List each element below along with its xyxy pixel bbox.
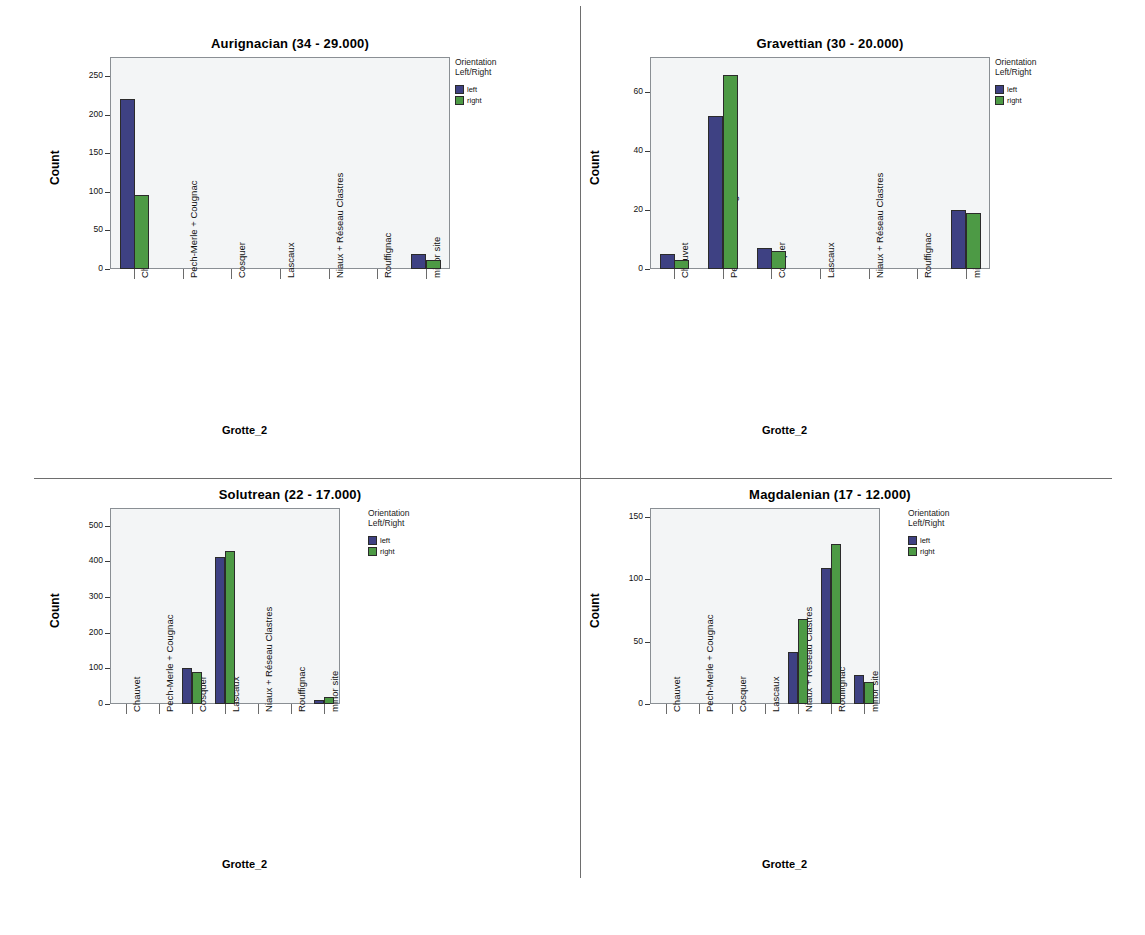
bar-solutrean-3-left	[215, 557, 225, 704]
x-axis-label-magdalenian-3: Lascaux	[770, 677, 781, 712]
x-tick-mark-gravettian-6	[966, 269, 967, 279]
x-axis-title-magdalenian: Grotte_2	[762, 858, 807, 870]
legend-title: OrientationLeft/Right	[368, 508, 410, 529]
legend-item-left[interactable]: left	[995, 85, 1037, 94]
y-tick-label: 20	[634, 204, 643, 214]
y-tick-mark	[645, 151, 650, 152]
bar-magdalenian-6-left	[854, 675, 864, 704]
bar-aurignacian-6-left	[411, 254, 426, 269]
x-tick-mark-solutrean-6	[324, 704, 325, 714]
legend-swatch-left-icon	[455, 85, 464, 94]
y-tick-label: 300	[89, 591, 103, 601]
y-tick-mark	[105, 230, 110, 231]
x-axis-label-aurignacian-3: Lascaux	[285, 243, 296, 278]
y-tick-mark	[105, 76, 110, 77]
bar-gravettian-6-right	[966, 213, 981, 269]
vertical-divider	[580, 6, 581, 878]
legend-title: OrientationLeft/Right	[908, 508, 950, 529]
legend-gravettian: OrientationLeft/Rightleftright	[995, 57, 1037, 107]
chart-title-magdalenian: Magdalenian (17 - 12.000)	[600, 487, 1060, 502]
y-tick-label: 60	[634, 86, 643, 96]
legend-item-right[interactable]: right	[368, 547, 410, 556]
bar-aurignacian-0-right	[134, 195, 149, 269]
x-tick-mark-aurignacian-0	[134, 269, 135, 279]
y-axis-title-magdalenian: Count	[588, 593, 602, 628]
legend-item-left[interactable]: left	[368, 536, 410, 545]
x-tick-mark-magdalenian-6	[864, 704, 865, 714]
bar-gravettian-1-left	[708, 116, 723, 269]
legend-label-right: right	[1007, 96, 1022, 105]
y-tick-mark	[105, 153, 110, 154]
x-axis-label-gravettian-5: Rouffignac	[922, 233, 933, 278]
y-tick-label: 400	[89, 555, 103, 565]
x-tick-mark-gravettian-0	[674, 269, 675, 279]
bar-magdalenian-5-left	[821, 568, 831, 704]
bar-aurignacian-0-left	[120, 99, 135, 269]
y-tick-label: 100	[89, 186, 103, 196]
y-tick-mark	[645, 704, 650, 705]
x-tick-mark-aurignacian-4	[329, 269, 330, 279]
y-tick-label: 150	[629, 511, 643, 521]
bar-solutrean-2-left	[182, 668, 192, 704]
legend-item-left[interactable]: left	[455, 85, 497, 94]
x-axis-label-gravettian-4: Niaux + Réseau Clastres	[874, 173, 885, 278]
y-tick-mark	[105, 597, 110, 598]
x-tick-mark-solutrean-2	[192, 704, 193, 714]
y-tick-mark	[645, 517, 650, 518]
y-tick-label: 100	[89, 662, 103, 672]
y-tick-label: 0	[98, 698, 103, 708]
x-axis-label-gravettian-3: Lascaux	[825, 243, 836, 278]
y-tick-mark	[105, 561, 110, 562]
bar-solutrean-6-left	[314, 700, 324, 704]
legend-item-right[interactable]: right	[908, 547, 950, 556]
y-axis-title-aurignacian: Count	[48, 150, 62, 185]
x-axis-label-solutrean-6: minor site	[329, 671, 340, 712]
legend-title-line2: Left/Right	[455, 67, 497, 77]
legend-label-right: right	[467, 96, 482, 105]
x-axis-title-aurignacian: Grotte_2	[222, 424, 267, 436]
x-tick-mark-aurignacian-6	[426, 269, 427, 279]
y-tick-mark	[105, 668, 110, 669]
plot-area-gravettian	[650, 57, 990, 269]
legend-title: OrientationLeft/Right	[455, 57, 497, 78]
horizontal-divider	[34, 478, 1112, 479]
bar-magdalenian-6-right	[864, 682, 874, 704]
figure-page: Aurignacian (34 - 29.000)050100150200250…	[0, 0, 1145, 935]
legend-item-right[interactable]: right	[995, 96, 1037, 105]
x-tick-mark-gravettian-5	[917, 269, 918, 279]
legend-label-left: left	[920, 536, 930, 545]
y-tick-label: 200	[89, 109, 103, 119]
x-axis-title-solutrean: Grotte_2	[222, 858, 267, 870]
y-tick-label: 50	[634, 636, 643, 646]
x-tick-mark-magdalenian-2	[732, 704, 733, 714]
legend-title-line1: Orientation	[455, 57, 497, 67]
x-axis-label-aurignacian-6: minor site	[431, 237, 442, 278]
x-axis-label-solutrean-1: Pech-Merle + Cougnac	[164, 615, 175, 712]
x-tick-mark-gravettian-1	[723, 269, 724, 279]
legend-item-left[interactable]: left	[908, 536, 950, 545]
legend-magdalenian: OrientationLeft/Rightleftright	[908, 508, 950, 558]
legend-item-right[interactable]: right	[455, 96, 497, 105]
bar-gravettian-0-left	[660, 254, 675, 269]
bar-solutrean-6-right	[324, 697, 334, 704]
y-tick-label: 0	[638, 263, 643, 273]
legend-title-line2: Left/Right	[908, 518, 950, 528]
x-tick-mark-solutrean-1	[159, 704, 160, 714]
y-tick-label: 150	[89, 147, 103, 157]
legend-swatch-left-icon	[995, 85, 1004, 94]
x-axis-label-aurignacian-4: Niaux + Réseau Clastres	[334, 173, 345, 278]
x-tick-mark-gravettian-3	[820, 269, 821, 279]
chart-title-solutrean: Solutrean (22 - 17.000)	[60, 487, 520, 502]
x-axis-title-gravettian: Grotte_2	[762, 424, 807, 436]
legend-label-right: right	[380, 547, 395, 556]
bar-gravettian-2-right	[771, 251, 786, 269]
legend-label-right: right	[920, 547, 935, 556]
x-tick-mark-solutrean-0	[126, 704, 127, 714]
y-axis-title-gravettian: Count	[588, 150, 602, 185]
y-tick-mark	[645, 210, 650, 211]
x-axis-label-aurignacian-1: Pech-Merle + Cougnac	[188, 181, 199, 278]
legend-swatch-right-icon	[368, 547, 377, 556]
x-tick-mark-aurignacian-3	[280, 269, 281, 279]
y-tick-mark	[105, 269, 110, 270]
legend-solutrean: OrientationLeft/Rightleftright	[368, 508, 410, 558]
